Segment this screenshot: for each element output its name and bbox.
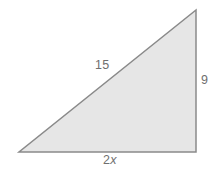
base-length-label: 2x: [103, 154, 117, 167]
vertical-leg-length-label: 9: [201, 74, 208, 87]
right-triangle-figure: 15 9 2x: [0, 0, 219, 171]
right-triangle-shape: [19, 10, 196, 152]
base-variable: x: [110, 153, 116, 167]
hypotenuse-length-label: 15: [95, 59, 109, 72]
triangle-canvas: [0, 0, 219, 171]
